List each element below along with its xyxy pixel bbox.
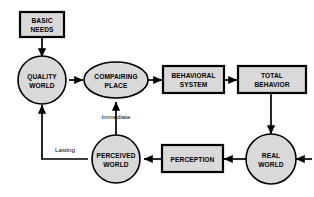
behavioral-system-label-line2: SYSTEM [180, 81, 208, 88]
total-behavior-box [238, 66, 306, 93]
quality-world-label-line1: QUALITY [27, 73, 57, 81]
diagram-canvas: BASIC NEEDS QUALITY WORLD COMPAIRING PLA… [0, 0, 314, 197]
node-total-behavior[interactable]: TOTAL BEHAVIOR [238, 66, 306, 93]
total-behavior-label-line2: BEHAVIOR [254, 81, 289, 88]
basic-needs-label-line1: BASIC [31, 17, 52, 24]
compairing-place-ellipse [84, 62, 148, 98]
compairing-place-label-line1: COMPAIRING [94, 73, 137, 80]
edge-label-lasting: Lasting [55, 146, 76, 153]
perception-label-line1: PERCEPTION [171, 156, 215, 163]
total-behavior-label-line1: TOTAL [261, 72, 283, 79]
node-compairing-place[interactable]: COMPAIRING PLACE [84, 62, 148, 98]
node-perception[interactable]: PERCEPTION [162, 145, 223, 172]
node-real-world[interactable]: REAL WORLD [246, 134, 296, 184]
basic-needs-label-line2: NEEDS [30, 26, 54, 33]
flowchart-svg: BASIC NEEDS QUALITY WORLD COMPAIRING PLA… [0, 0, 314, 197]
behavioral-system-box [163, 66, 224, 93]
real-world-label-line2: WORLD [258, 161, 284, 168]
node-perceived-world[interactable]: PERCEIVED WORLD [92, 135, 140, 183]
edge-label-immediate: Immediate [102, 113, 131, 120]
node-basic-needs[interactable]: BASIC NEEDS [20, 12, 64, 37]
perceived-world-label-line1: PERCEIVED [96, 152, 135, 159]
perceived-world-label-line2: WORLD [103, 161, 129, 168]
perceived-world-circle [92, 135, 140, 183]
real-world-circle [246, 134, 296, 184]
compairing-place-label-line2: PLACE [105, 82, 128, 89]
node-quality-world[interactable]: QUALITY WORLD [18, 56, 66, 104]
node-behavioral-system[interactable]: BEHAVIORAL SYSTEM [163, 66, 224, 93]
quality-world-circle [18, 56, 66, 104]
behavioral-system-label-line1: BEHAVIORAL [171, 72, 215, 79]
quality-world-label-line2: WORLD [29, 82, 55, 89]
real-world-label-line1: REAL [262, 152, 280, 159]
